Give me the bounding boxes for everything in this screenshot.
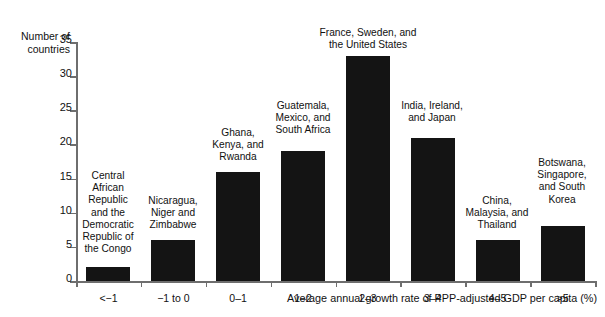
bar-3[interactable] — [216, 172, 260, 281]
bar-label-2: Nicaragua, Niger and Zimbabwe — [129, 195, 217, 232]
x-tick-boundary — [465, 281, 467, 287]
y-tick-label: 0 — [66, 273, 72, 284]
x-tick-label-2: −1 to 0 — [141, 292, 206, 304]
x-tick-boundary — [76, 281, 78, 287]
bar-chart-figure: Number of countries 0 5 10 15 20 25 — [0, 0, 605, 317]
x-tick-label-3: 0–1 — [206, 292, 271, 304]
x-axis-title: Average annual growth rate of PPP-adjust… — [287, 292, 597, 304]
plot-area: 0 5 10 15 20 25 30 35 — [76, 42, 595, 281]
x-tick-boundary — [336, 281, 338, 287]
bar-5[interactable] — [346, 56, 390, 281]
x-tick-boundary — [271, 281, 273, 287]
x-tick-label-1: <−1 — [76, 292, 141, 304]
y-tick-label: 25 — [60, 102, 72, 113]
y-tick-label: 30 — [60, 68, 72, 79]
bar-2[interactable] — [151, 240, 195, 281]
x-tick-boundary — [530, 281, 532, 287]
bar-label-6: India, Ireland, and Japan — [388, 100, 476, 124]
bar-8[interactable] — [541, 226, 585, 281]
y-tick-label: 20 — [60, 136, 72, 147]
bar-label-4: Guatemala, Mexico, and South Africa — [255, 100, 351, 137]
bar-label-8: Botswana, Singapore, and South Korea — [518, 157, 605, 206]
bar-7[interactable] — [476, 240, 520, 281]
x-tick-boundary — [206, 281, 208, 287]
y-tick-label: 35 — [60, 34, 72, 45]
bar-4[interactable] — [281, 151, 325, 281]
bar-1[interactable] — [86, 267, 130, 281]
x-tick-boundary — [141, 281, 143, 287]
x-tick-boundary — [400, 281, 402, 287]
x-tick-boundary — [595, 281, 597, 287]
bar-label-5: France, Sweden, and the United States — [298, 27, 438, 51]
